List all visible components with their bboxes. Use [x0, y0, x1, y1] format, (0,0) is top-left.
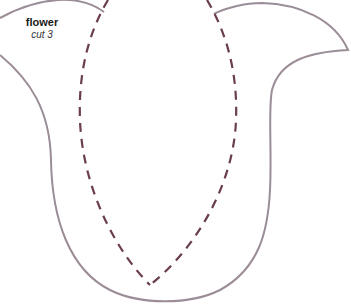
- flower-pattern: [0, 0, 351, 305]
- fold-line-right: [150, 0, 236, 285]
- fold-line-left: [80, 0, 150, 285]
- pattern-title: flower: [20, 16, 64, 29]
- flower-outline: [0, 0, 348, 301]
- pattern-label: flower cut 3: [20, 16, 64, 41]
- cut-instruction: cut 3: [20, 29, 64, 41]
